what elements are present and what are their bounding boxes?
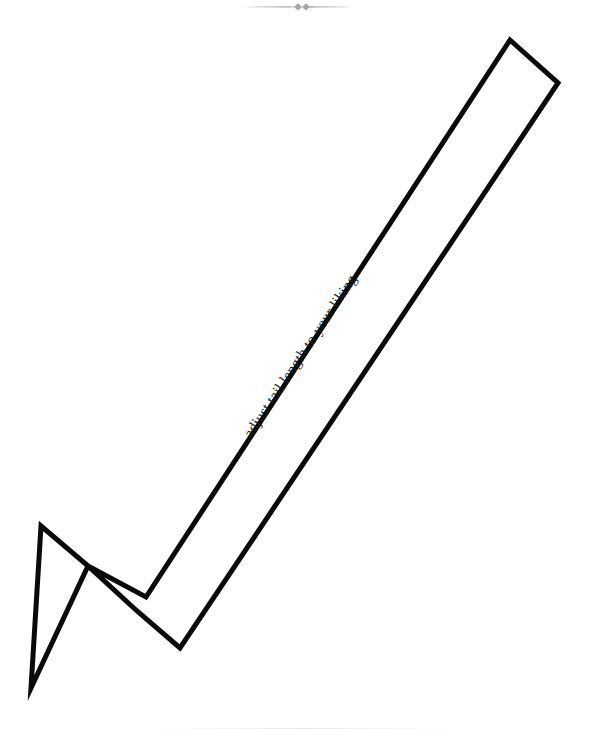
arrow-illustration bbox=[0, 0, 596, 729]
page-canvas: adjust tail length to your liking bbox=[0, 0, 596, 729]
arrow-outline-path bbox=[31, 40, 558, 688]
